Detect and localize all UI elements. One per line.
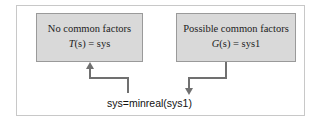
- arrow-head-down-icon: [185, 88, 193, 95]
- arrow-head-up-icon: [86, 62, 94, 69]
- arrow-command-to-left: [90, 66, 128, 93]
- arrow-right-to-command: [189, 62, 226, 90]
- minreal-command: sys=minreal(sys1): [107, 97, 192, 109]
